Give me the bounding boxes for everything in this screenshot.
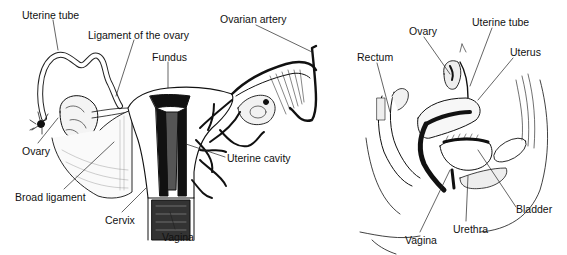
label-uterine-tube-right: Uterine tube [472,16,529,28]
label-fundus: Fundus [152,51,187,63]
label-uterine-cavity: Uterine cavity [227,152,291,164]
label-bladder: Bladder [516,203,552,215]
label-ligament-of-ovary: Ligament of the ovary [88,29,189,41]
label-uterus: Uterus [510,46,541,58]
anatomy-diagram: Uterine tube Ligament of the ovary Fundu… [0,0,567,255]
label-ovary-right: Ovary [409,25,437,37]
label-cervix: Cervix [105,214,135,226]
label-rectum: Rectum [357,51,393,63]
uterus-anterior-illustration [0,0,567,255]
label-vagina-right: Vagina [405,234,437,246]
label-ovarian-artery: Ovarian artery [220,13,287,25]
label-broad-ligament: Broad ligament [15,191,86,203]
label-urethra: Urethra [453,223,488,235]
label-ovary-left: Ovary [22,145,50,157]
label-uterine-tube: Uterine tube [22,9,79,21]
label-vagina-left: Vagina [162,231,194,243]
